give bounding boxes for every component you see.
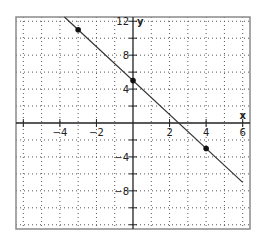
y-tick-label: 8 [123,50,129,61]
data-point [203,146,209,152]
x-tick-label: 6 [240,127,246,138]
y-tick-label: 4 [123,84,129,95]
axes [16,17,250,229]
y-tick-label: 12 [116,16,129,27]
data-series [64,17,242,182]
line-plot [64,17,242,182]
x-tick-label: −2 [89,127,104,138]
data-point [130,78,136,84]
coordinate-plane-chart: −4−22461284−4−8 x y [0,0,260,240]
y-tick-label: −8 [114,186,129,197]
x-tick-label: −4 [53,127,68,138]
x-axis-label: x [239,110,246,121]
x-tick-label: 4 [203,127,209,138]
y-tick-label: −4 [114,152,129,163]
x-tick-label: 2 [166,127,172,138]
y-axis-label: y [137,16,144,27]
data-point [75,27,81,33]
